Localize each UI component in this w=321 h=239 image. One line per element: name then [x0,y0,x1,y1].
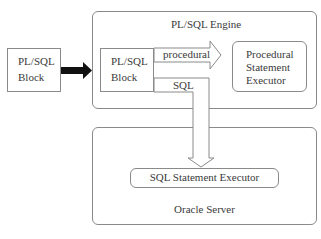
oracle-server-title: Oracle Server [92,203,317,216]
sql-statement-executor-label: SQL Statement Executor [130,171,279,184]
sql-arrow-label: SQL [173,79,194,92]
thick-arrow-icon [61,62,92,79]
procedural-arrow-label: procedural [163,48,210,61]
